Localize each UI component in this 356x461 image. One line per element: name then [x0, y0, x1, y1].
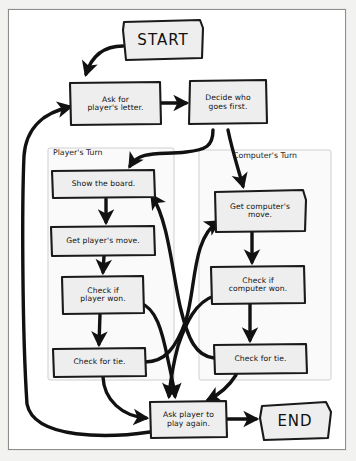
node-show-board[interactable] — [52, 170, 155, 198]
node-player-tie[interactable] — [53, 348, 146, 377]
edge-player-won-to-player-tie — [99, 314, 100, 344]
node-comp-won[interactable] — [211, 266, 305, 304]
node-ask-letter[interactable] — [70, 82, 161, 125]
node-comp-tie[interactable] — [214, 344, 307, 374]
node-player-won[interactable] — [62, 276, 144, 314]
node-player-move[interactable] — [51, 226, 155, 256]
edge-player-tie-to-play-again — [103, 377, 146, 418]
node-comp-move[interactable] — [215, 190, 306, 232]
edge-player-move-to-player-won — [103, 256, 104, 272]
node-play-again[interactable] — [150, 401, 227, 438]
diagram-page: Player's Turn Computer's Turn START Ask … — [0, 0, 356, 461]
node-end[interactable] — [260, 402, 331, 440]
flowchart-canvas — [0, 0, 356, 461]
edge-start-to-ask-letter — [86, 46, 123, 74]
node-decide-first[interactable] — [189, 80, 267, 124]
node-start[interactable] — [123, 20, 203, 60]
